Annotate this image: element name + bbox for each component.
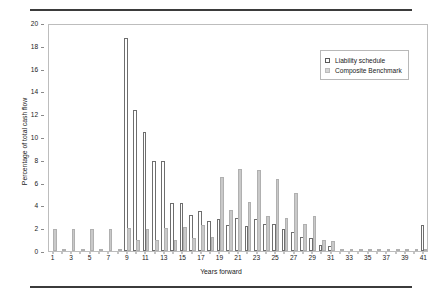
- bar-composite-benchmark: [118, 249, 122, 251]
- legend-item: Composite Benchmark: [325, 65, 402, 75]
- bar-composite-benchmark: [313, 216, 317, 251]
- x-axis-tick-label: 37: [383, 254, 390, 262]
- bar-composite-benchmark: [331, 241, 335, 251]
- bar-group: [49, 25, 58, 251]
- legend: Liability schedule Composite Benchmark: [320, 50, 409, 80]
- bar-composite-benchmark: [220, 177, 224, 251]
- bar-group: [188, 25, 197, 251]
- bar-composite-benchmark: [266, 216, 270, 251]
- bar-composite-benchmark: [146, 229, 150, 251]
- bar-group: [169, 25, 178, 251]
- x-axis-tick-mark: [61, 252, 62, 254]
- bar-group: [271, 25, 280, 251]
- bar-composite-benchmark: [99, 249, 103, 251]
- bar-group: [77, 25, 86, 251]
- bar-composite-benchmark: [127, 228, 131, 251]
- bar-composite-benchmark: [285, 218, 289, 251]
- x-axis-tick-label: 41: [420, 254, 427, 262]
- x-axis-tick-label: 17: [197, 254, 204, 262]
- bar-group: [95, 25, 104, 251]
- bar-composite-benchmark: [303, 224, 307, 251]
- x-axis-tick-mark: [117, 252, 118, 254]
- bar-composite-benchmark: [387, 249, 391, 251]
- x-axis-tick-mark: [173, 252, 174, 254]
- y-axis-tick-label: 12: [31, 112, 38, 119]
- y-axis-tick-label: 18: [31, 44, 38, 51]
- y-axis-tick-label: 4: [34, 203, 38, 210]
- x-axis-tick-mark: [377, 252, 378, 254]
- x-axis-tick-mark: [395, 252, 396, 254]
- x-axis-tick-mark: [265, 252, 266, 254]
- bar-composite-benchmark: [396, 249, 400, 251]
- x-axis-tick-mark: [154, 252, 155, 254]
- figure: Percentage of total cash flow 0246810121…: [0, 0, 442, 301]
- y-axis-tick-mark: [41, 138, 44, 139]
- x-axis-tick-mark: [302, 252, 303, 254]
- bar-group: [309, 25, 318, 251]
- bar-group: [132, 25, 141, 251]
- bar-group: [123, 25, 132, 251]
- bar-group: [225, 25, 234, 251]
- bar-liability-schedule: [124, 38, 128, 251]
- bar-composite-benchmark: [294, 193, 298, 251]
- x-axis-tick-label: 19: [216, 254, 223, 262]
- bar-composite-benchmark: [377, 249, 381, 251]
- x-axis-tick-label: 9: [125, 254, 129, 262]
- bar-group: [68, 25, 77, 251]
- bar-composite-benchmark: [183, 227, 187, 251]
- y-axis-tick-label: 16: [31, 66, 38, 73]
- bar-composite-benchmark: [136, 240, 140, 251]
- x-axis-tick-mark: [339, 252, 340, 254]
- bar-composite-benchmark: [276, 179, 280, 251]
- y-axis-tick-mark: [41, 229, 44, 230]
- bar-composite-benchmark: [81, 249, 85, 251]
- legend-swatch-icon: [325, 58, 330, 63]
- x-axis-tick-mark: [414, 252, 415, 254]
- legend-item-label: Liability schedule: [335, 57, 385, 64]
- x-axis-tick-label: 35: [364, 254, 371, 262]
- bar-composite-benchmark: [340, 249, 344, 251]
- y-axis-tick-mark: [41, 92, 44, 93]
- x-axis-tick-label: 39: [401, 254, 408, 262]
- y-axis-tick-label: 8: [34, 158, 38, 165]
- bar-group: [160, 25, 169, 251]
- y-axis-tick-label: 6: [34, 180, 38, 187]
- bar-composite-benchmark: [174, 240, 178, 251]
- bar-group: [244, 25, 253, 251]
- x-axis-tick-label: 15: [179, 254, 186, 262]
- x-axis-title: Years forward: [0, 268, 442, 275]
- bar-composite-benchmark: [201, 225, 205, 251]
- y-axis-tick-label: 0: [34, 249, 38, 256]
- y-axis-tick-label: 2: [34, 226, 38, 233]
- bar-composite-benchmark: [257, 170, 261, 251]
- bar-composite-benchmark: [211, 237, 215, 251]
- bar-group: [142, 25, 151, 251]
- bar-composite-benchmark: [248, 202, 252, 251]
- bar-composite-benchmark: [415, 249, 419, 251]
- x-axis-tick-mark: [98, 252, 99, 254]
- bar-liability-schedule: [421, 225, 425, 251]
- bar-group: [197, 25, 206, 251]
- y-axis-tick-mark: [41, 252, 44, 253]
- bar-group: [299, 25, 308, 251]
- bar-composite-benchmark: [238, 169, 242, 251]
- bar-group: [410, 25, 419, 251]
- y-axis-tick-mark: [41, 70, 44, 71]
- x-axis-tick-label: 29: [308, 254, 315, 262]
- x-axis-ticks: 1357911131517192123252729313335373941: [48, 254, 428, 268]
- bar-composite-benchmark: [72, 229, 76, 251]
- x-axis-tick-label: 25: [271, 254, 278, 262]
- y-axis-tick-label: 14: [31, 89, 38, 96]
- x-axis-tick-label: 33: [346, 254, 353, 262]
- bar-group: [58, 25, 67, 251]
- bar-composite-benchmark: [359, 249, 363, 251]
- bar-group: [151, 25, 160, 251]
- bar-composite-benchmark: [229, 210, 233, 251]
- bar-group: [262, 25, 271, 251]
- x-axis-tick-mark: [191, 252, 192, 254]
- y-axis-tick-mark: [41, 184, 44, 185]
- top-rule: [30, 9, 412, 11]
- legend-item-label: Composite Benchmark: [335, 67, 402, 74]
- bar-liability-schedule: [133, 110, 137, 251]
- bar-group: [179, 25, 188, 251]
